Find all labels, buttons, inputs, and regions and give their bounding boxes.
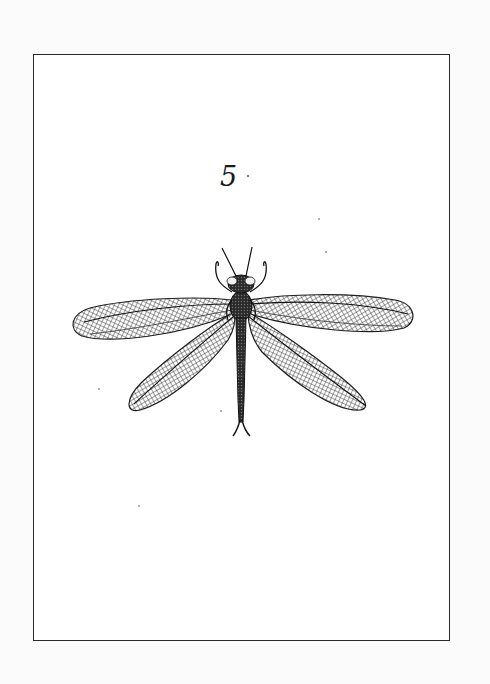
paper-speck bbox=[98, 388, 100, 390]
paper-speck bbox=[325, 251, 327, 253]
abdomen bbox=[236, 318, 246, 422]
thorax bbox=[230, 291, 252, 321]
dragonfly-illustration bbox=[0, 0, 490, 684]
antennae bbox=[222, 247, 252, 276]
right-forewing bbox=[250, 295, 413, 332]
paper-speck bbox=[318, 218, 320, 220]
paper-speck bbox=[220, 410, 222, 412]
paper-speck bbox=[138, 505, 140, 507]
